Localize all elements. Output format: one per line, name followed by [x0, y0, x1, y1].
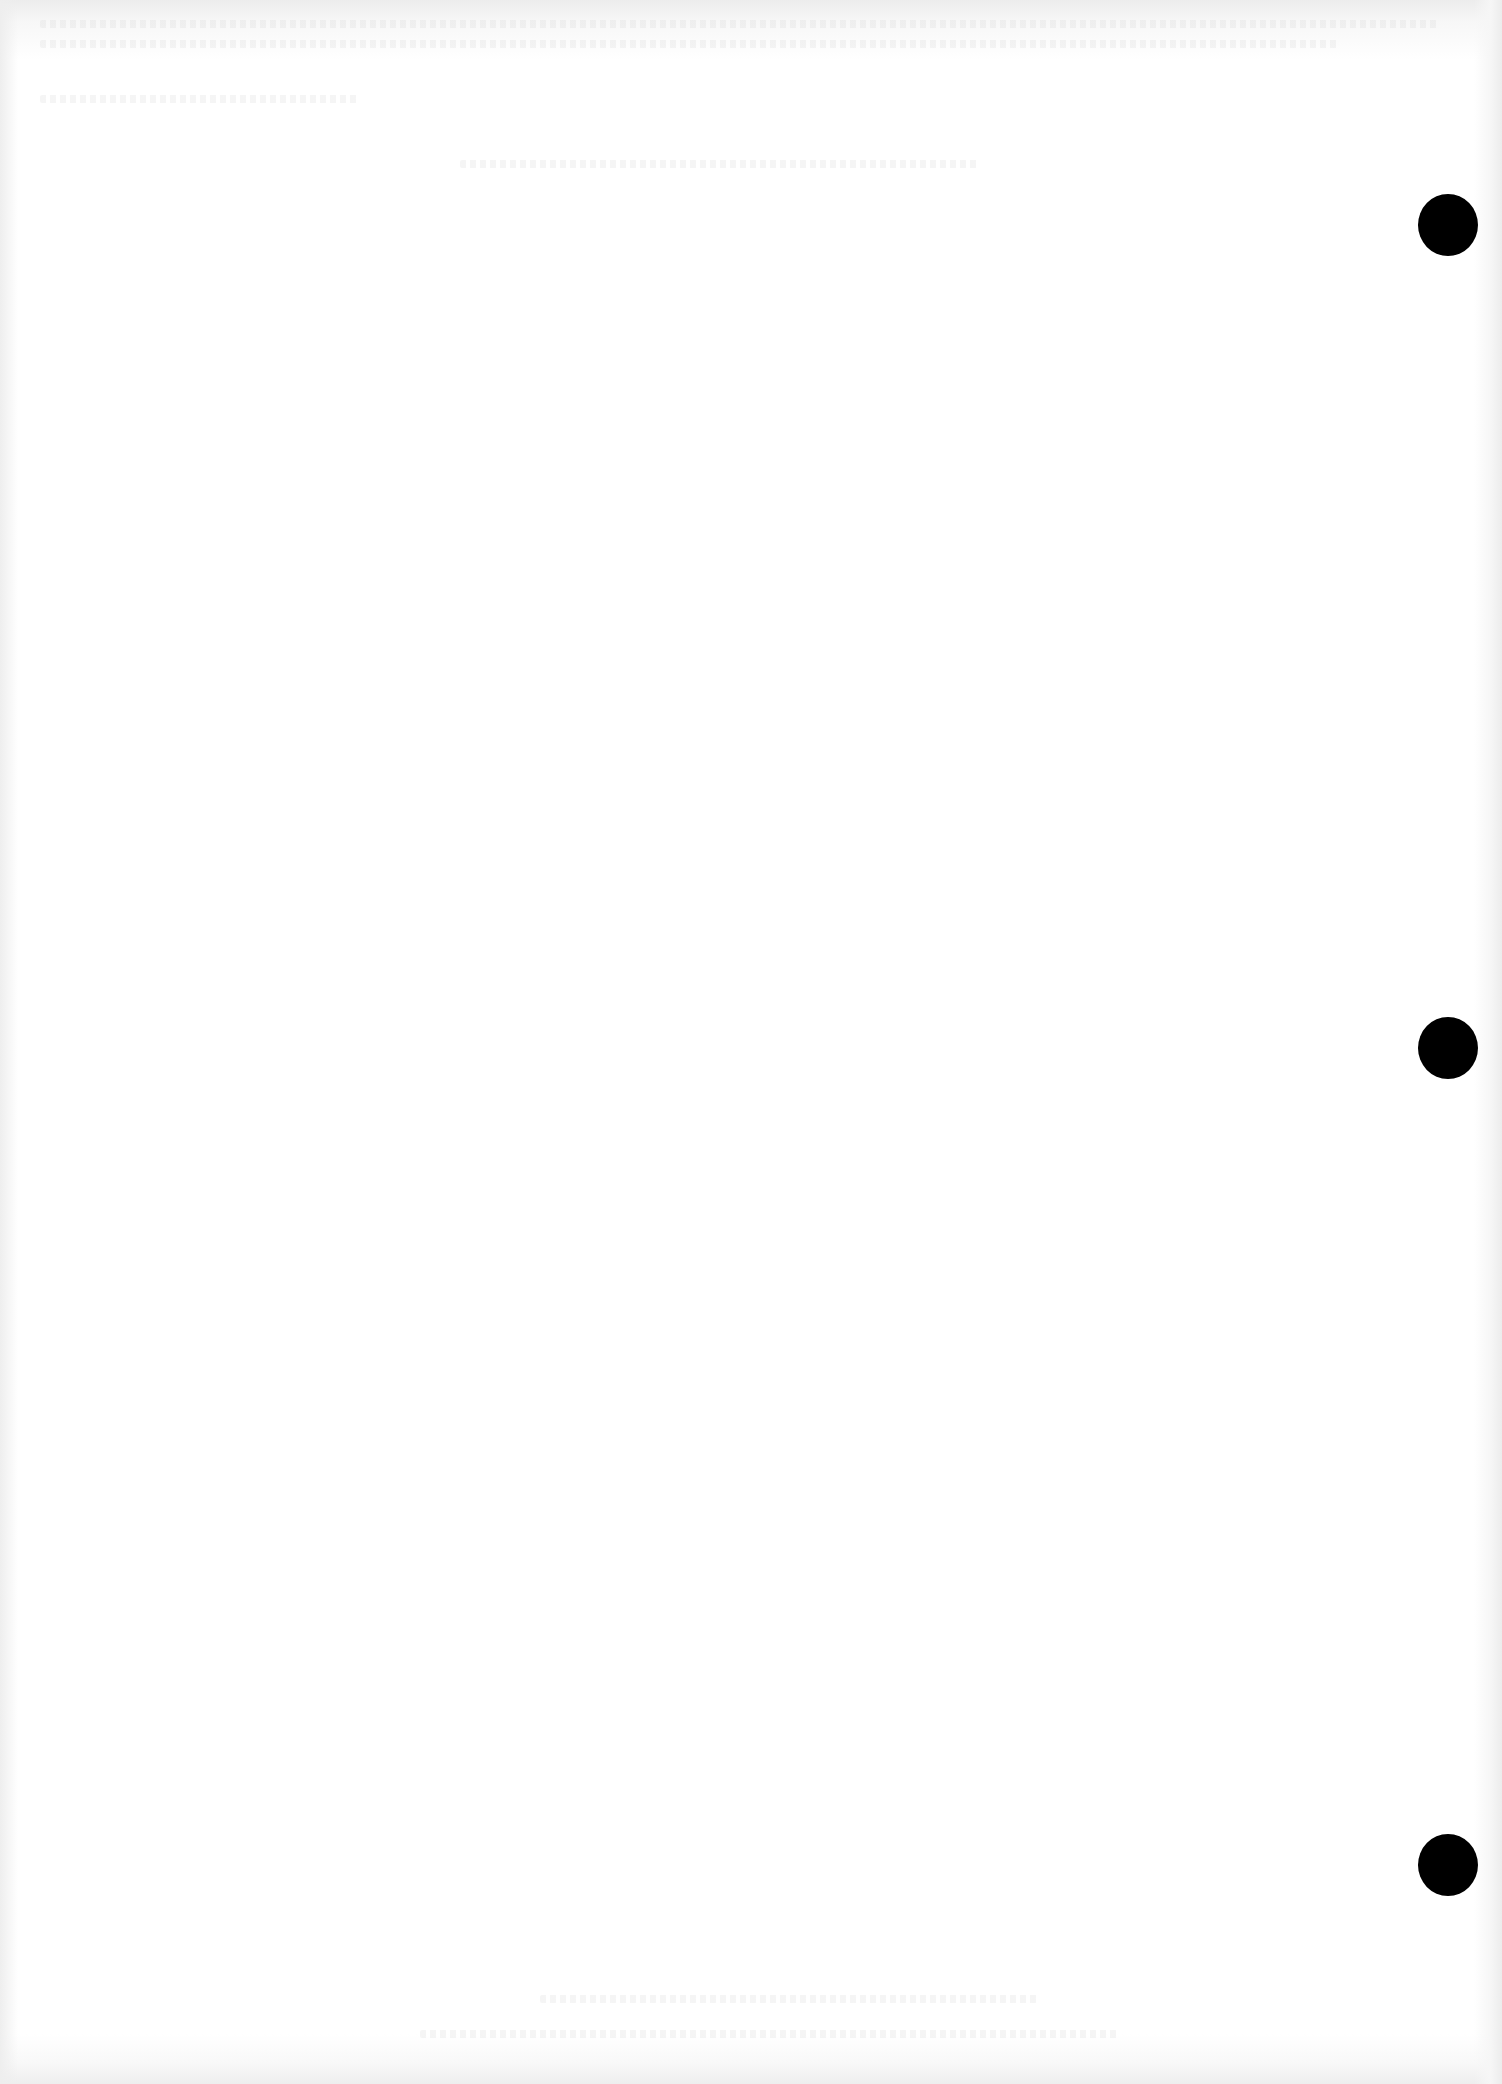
- show-through-mark: [460, 160, 980, 168]
- punch-hole-top: [1418, 194, 1478, 256]
- scanned-page: [0, 0, 1502, 2084]
- show-through-mark: [540, 1995, 1040, 2003]
- punch-hole-bottom: [1418, 1834, 1478, 1896]
- show-through-mark: [40, 20, 1440, 28]
- scan-edge-bottom: [0, 2034, 1502, 2084]
- punch-hole-middle: [1418, 1017, 1478, 1079]
- show-through-mark: [40, 40, 1340, 48]
- scan-edge-top: [0, 0, 1502, 60]
- show-through-mark: [420, 2030, 1120, 2038]
- scan-edge-left: [0, 0, 18, 2084]
- scan-edge-right: [1474, 0, 1502, 2084]
- show-through-mark: [40, 95, 360, 103]
